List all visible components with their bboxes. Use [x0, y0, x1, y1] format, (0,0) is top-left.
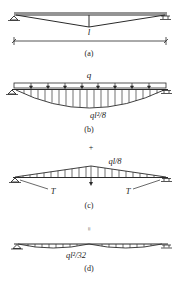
pin-support-icon [11, 245, 23, 250]
moment-hatch [28, 244, 151, 248]
moment-hatch [23, 166, 161, 177]
tension-leader-left [20, 180, 48, 189]
tension-leader-right [133, 180, 160, 189]
panel-c: ql/8 [9, 156, 172, 210]
load-label: q [87, 70, 92, 80]
panel-d: ql²/32 (d) [11, 244, 172, 273]
pin-support-icon [6, 90, 18, 95]
panel-b: q [6, 70, 172, 134]
span-label: l [88, 27, 91, 37]
truss-bottom-chord [16, 15, 165, 27]
roller-support-icon [160, 16, 171, 20]
caption-a: (a) [85, 49, 94, 58]
moment-triangle [15, 166, 166, 177]
panel-a: l (a) [8, 13, 171, 58]
roller-support-icon [161, 245, 172, 248]
plus-operator: + [89, 143, 94, 152]
roller-support-icon [161, 179, 172, 182]
truss-moment-diagram: l (a) q [0, 0, 179, 282]
tension-label-left: T [51, 186, 57, 196]
moment-hatch [24, 90, 157, 107]
equals-operator: = [85, 227, 93, 231]
pin-support-icon [9, 178, 21, 183]
caption-c: (c) [85, 201, 94, 210]
pin-support-icon [8, 16, 20, 21]
tension-label-right: T [126, 186, 132, 196]
moment-curve [18, 244, 162, 248]
distributed-load [14, 83, 166, 88]
moment-label: ql²/8 [90, 110, 107, 120]
caption-d: (d) [84, 264, 94, 273]
arrow-down-icon [89, 178, 93, 186]
force-label: ql/8 [108, 156, 122, 166]
caption-b: (b) [84, 125, 94, 134]
moment-label: ql²/32 [66, 250, 87, 260]
